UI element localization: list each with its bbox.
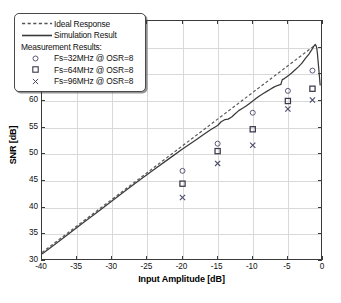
axis-tick: [318, 47, 322, 48]
y-tick-label: 45: [16, 175, 38, 184]
y-tick-label: 35: [16, 228, 38, 237]
axis-tick: [318, 207, 322, 208]
axis-tick: [318, 153, 322, 154]
marker-circle-fs32: [180, 168, 185, 173]
legend-row-fs96: Fs=96MHz @ OSR=8: [20, 76, 139, 88]
axis-tick: [41, 127, 45, 128]
legend-row-ideal-response: Ideal Response: [20, 18, 139, 30]
marker-x-fs96: [285, 106, 290, 111]
axis-tick: [318, 20, 322, 21]
axis-tick: [318, 127, 322, 128]
axis-tick: [287, 256, 288, 260]
legend-label-fs96: Fs=96MHz @ OSR=8: [50, 76, 133, 86]
legend-label-measurement-header: Measurement Results:: [20, 42, 102, 52]
legend-row-simulation-result: Simulation Result: [20, 30, 139, 42]
axis-tick: [41, 260, 45, 261]
marker-square-fs64: [215, 149, 220, 154]
square-marker-icon: [20, 64, 50, 75]
axis-tick: [76, 256, 77, 260]
x-tick-label: -10: [246, 262, 258, 271]
axis-tick: [41, 100, 45, 101]
axis-tick: [322, 256, 323, 260]
axis-tick: [252, 20, 253, 24]
marker-circle-fs32: [215, 141, 220, 146]
y-tick-label: 40: [16, 202, 38, 211]
axis-tick: [146, 20, 147, 24]
axis-tick: [318, 100, 322, 101]
axis-tick: [146, 256, 147, 260]
axis-tick: [217, 20, 218, 24]
legend-row-fs64: Fs=64MHz @ OSR=8: [20, 64, 139, 76]
x-tick-label: 0: [320, 262, 324, 271]
marker-circle-fs32: [285, 88, 290, 93]
x-axis-title: Input Amplitude [dB]: [41, 274, 322, 284]
legend-label-fs32: Fs=32MHz @ OSR=8: [50, 53, 133, 63]
x-tick-label: -35: [70, 262, 82, 271]
marker-x-fs96: [310, 97, 315, 102]
y-tick-label: 60: [16, 95, 38, 104]
marker-circle-fs32: [250, 110, 255, 115]
axis-tick: [318, 260, 322, 261]
solid-line-icon: [20, 32, 54, 39]
x-tick-label: -20: [176, 262, 188, 271]
marker-square-fs64: [250, 127, 255, 132]
legend-label-fs64: Fs=64MHz @ OSR=8: [50, 65, 133, 75]
axis-tick: [41, 233, 45, 234]
legend-label-ideal-response: Ideal Response: [54, 19, 110, 29]
x-tick-label: -30: [105, 262, 117, 271]
axis-tick: [287, 20, 288, 24]
marker-square-fs64: [180, 181, 185, 186]
y-axis-title: SNR [dB]: [8, 100, 18, 190]
legend-label-simulation-result: Simulation Result: [54, 30, 117, 40]
axis-tick: [322, 20, 323, 24]
y-tick-label: 50: [16, 148, 38, 157]
marker-circle-fs32: [310, 68, 315, 73]
circle-marker-icon: [20, 53, 50, 64]
axis-tick: [318, 233, 322, 234]
marker-x-fs96: [250, 143, 255, 148]
legend-box: Ideal Response Simulation Result Measure…: [14, 13, 146, 92]
marker-square-fs64: [310, 86, 315, 91]
figure-chart-snr-vs-input-amplitude: -40-35-30-25-20-15-10-50 303540455055606…: [0, 0, 341, 303]
axis-tick: [252, 256, 253, 260]
axis-tick: [41, 153, 45, 154]
x-marker-icon: [20, 76, 50, 87]
axis-tick: [318, 73, 322, 74]
axis-tick: [182, 20, 183, 24]
y-tick-label: 55: [16, 122, 38, 131]
measurement-markers: [180, 68, 315, 200]
axis-tick: [41, 180, 45, 181]
x-tick-label: -15: [211, 262, 223, 271]
marker-square-fs64: [285, 98, 290, 103]
axis-tick: [111, 256, 112, 260]
axis-tick: [41, 207, 45, 208]
axis-tick: [217, 256, 218, 260]
x-tick-label: -25: [141, 262, 153, 271]
legend-row-fs32: Fs=32MHz @ OSR=8: [20, 53, 139, 65]
legend-row-measurement-header: Measurement Results:: [20, 41, 139, 53]
marker-x-fs96: [180, 195, 185, 200]
dashed-line-icon: [20, 20, 54, 27]
x-tick-label: -5: [283, 262, 290, 271]
axis-tick: [318, 180, 322, 181]
marker-x-fs96: [215, 161, 220, 166]
axis-tick: [182, 256, 183, 260]
y-tick-label: 30: [16, 255, 38, 264]
